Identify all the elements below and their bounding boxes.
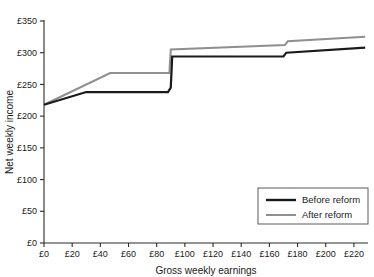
x-axis-tick-label: £0 [39, 249, 49, 259]
x-axis-tick-label: £80 [149, 249, 164, 259]
chart-container: £0£50£100£150£200£250£300£350£0£20£40£60… [0, 0, 374, 277]
series-line-before-reform [44, 48, 365, 105]
y-axis-title: Net weekly income [4, 90, 15, 174]
x-axis-tick-label: £140 [231, 249, 251, 259]
x-axis-tick-label: £160 [259, 249, 279, 259]
y-axis-tick-label: £350 [17, 16, 37, 26]
line-chart: £0£50£100£150£200£250£300£350£0£20£40£60… [0, 0, 374, 277]
y-axis-tick-label: £50 [22, 206, 37, 216]
legend-label: Before reform [302, 194, 360, 205]
x-axis-tick-label: £100 [175, 249, 195, 259]
legend-label: After reform [302, 209, 352, 220]
x-axis-tick-label: £120 [203, 249, 223, 259]
x-axis-tick-label: £40 [93, 249, 108, 259]
x-axis-tick-label: £220 [344, 249, 364, 259]
series-line-after-reform [44, 37, 365, 105]
y-axis-tick-label: £250 [17, 80, 37, 90]
y-axis-tick-label: £0 [27, 238, 37, 248]
x-axis-tick-label: £180 [288, 249, 308, 259]
y-axis-tick-label: £300 [17, 48, 37, 58]
y-axis-tick-label: £100 [17, 175, 37, 185]
x-axis-tick-label: £60 [121, 249, 136, 259]
x-axis-title: Gross weekly earnings [155, 265, 256, 276]
y-axis-tick-label: £150 [17, 143, 37, 153]
x-axis-tick-label: £20 [65, 249, 80, 259]
y-axis-tick-label: £200 [17, 111, 37, 121]
x-axis-tick-label: £200 [316, 249, 336, 259]
